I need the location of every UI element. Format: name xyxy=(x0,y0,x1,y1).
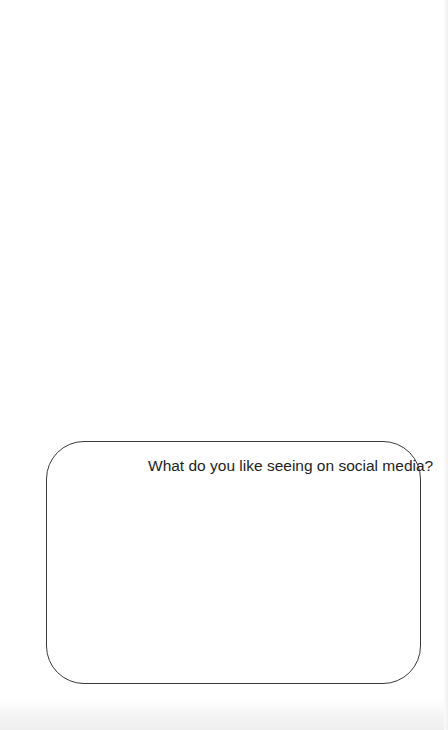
page-edge-shadow xyxy=(444,0,448,730)
document-page: What do you like seeing on social media? xyxy=(0,0,448,730)
question-prompt: What do you like seeing on social media? xyxy=(148,457,433,475)
answer-box[interactable] xyxy=(46,441,421,684)
